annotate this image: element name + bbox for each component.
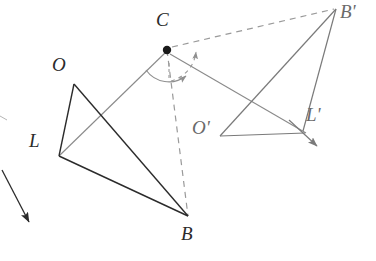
segment-C-B (167, 50, 188, 216)
label-C: C (156, 10, 169, 29)
segment-C-Bprime (172, 9, 334, 47)
rotation-arc-main (146, 70, 186, 82)
segment-C-L (59, 51, 167, 156)
label-O-prime: O' (192, 118, 210, 137)
edge-mark-left (0, 116, 7, 120)
center-point-C-marker (163, 46, 171, 54)
geometry-figure: C O L B O' L' B' (0, 0, 376, 261)
segment-C-Lprime (170, 54, 306, 133)
label-B-prime: B' (340, 2, 356, 21)
figure-canvas (0, 0, 376, 261)
segment-O-B (74, 84, 188, 216)
translation-arrow-left (2, 170, 29, 222)
label-B: B (181, 224, 193, 243)
label-L: L (29, 131, 40, 150)
segment-O-L (59, 84, 74, 156)
segment-Oprime-Lprime (220, 133, 305, 136)
segment-L-B (59, 156, 188, 216)
label-O: O (52, 55, 66, 74)
label-L-prime: L' (306, 105, 321, 124)
